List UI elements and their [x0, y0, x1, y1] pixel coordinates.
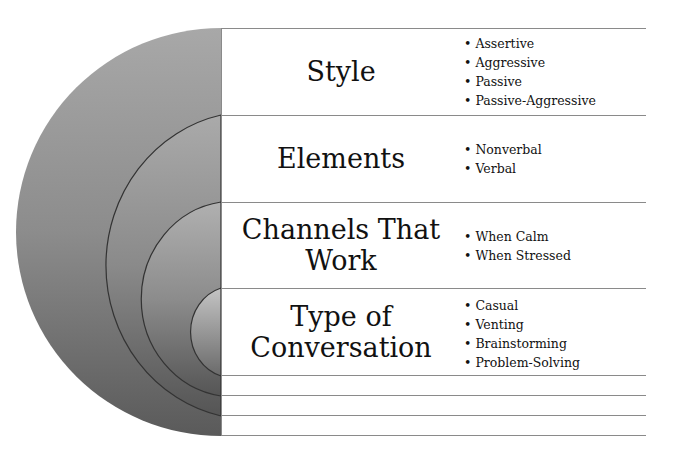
- row-label: Elements: [221, 115, 461, 202]
- row-label: Channels That Work: [221, 202, 461, 288]
- list-item: Casual: [464, 296, 580, 315]
- list-item: Venting: [464, 315, 580, 334]
- row-items: Casual Venting Brainstorming Problem-Sol…: [464, 296, 580, 372]
- list-item: Verbal: [464, 159, 542, 178]
- row-label: Type of Conversation: [221, 288, 461, 375]
- categories-table: Style Assertive Aggressive Passive Passi…: [221, 0, 647, 461]
- list-item: When Calm: [464, 227, 571, 246]
- list-item: Nonverbal: [464, 140, 542, 159]
- divider: [221, 435, 646, 436]
- list-item: Brainstorming: [464, 334, 580, 353]
- row-items: When Calm When Stressed: [464, 227, 571, 265]
- list-item: Passive-Aggressive: [464, 91, 596, 110]
- row-conversation: Type of Conversation Casual Venting Brai…: [221, 288, 646, 375]
- divider: [221, 415, 646, 416]
- list-item: Problem-Solving: [464, 353, 580, 372]
- row-items: Nonverbal Verbal: [464, 140, 542, 178]
- divider: [221, 375, 646, 376]
- row-items: Assertive Aggressive Passive Passive-Agg…: [464, 37, 596, 107]
- row-elements: Elements Nonverbal Verbal: [221, 115, 646, 202]
- list-item: When Stressed: [464, 246, 571, 265]
- divider: [221, 395, 646, 396]
- list-item: Aggressive: [464, 53, 596, 72]
- row-style: Style Assertive Aggressive Passive Passi…: [221, 28, 646, 115]
- row-label: Style: [221, 28, 461, 115]
- row-channels: Channels That Work When Calm When Stress…: [221, 202, 646, 288]
- list-item: Passive: [464, 72, 596, 91]
- list-item: Assertive: [464, 34, 596, 53]
